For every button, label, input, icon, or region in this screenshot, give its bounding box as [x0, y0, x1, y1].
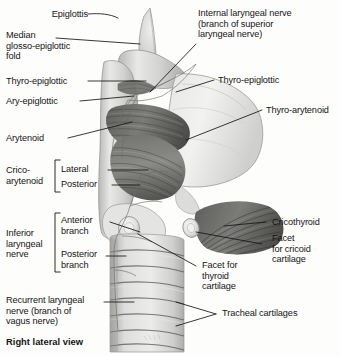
trachea: [110, 234, 184, 352]
label-inferior-posterior-branch: Posterior branch: [61, 249, 113, 270]
label-crico-arytenoid: Crico- arytenoid: [6, 165, 58, 186]
label-arytenoid: Arytenoid: [6, 133, 76, 144]
label-median-glosso-epiglottic-fold: Median glosso-epiglottic fold: [6, 30, 116, 62]
label-crico-arytenoid-lateral: Lateral: [61, 164, 109, 175]
label-facet-for-cricoid-cartilage: Facet for cricoid cartilage: [272, 233, 338, 265]
label-crico-arytenoid-posterior: Posterior: [61, 179, 116, 190]
label-thyro-epiglottic-right: Thyro-epiglottic: [218, 75, 318, 86]
label-recurrent-laryngeal-nerve: Recurrent laryngeal nerve (branch of vag…: [6, 295, 116, 327]
label-thyro-epiglottic-left: Thyro-epiglottic: [6, 76, 96, 87]
label-cricothyroid: Cricothyroid: [272, 217, 340, 228]
label-inferior-anterior-branch: Anterior branch: [61, 215, 113, 236]
leader-epiglottis: [88, 14, 118, 18]
label-inferior-laryngeal-nerve: Inferior laryngeal nerve: [6, 228, 58, 260]
label-thyro-arytenoid: Thyro-arytenoid: [266, 105, 340, 116]
label-facet-for-thyroid-cartilage: Facet for thyroid cartilage: [202, 260, 266, 292]
label-epiglottis: Epiglottis: [34, 9, 88, 20]
label-tracheal-cartilages: Tracheal cartilages: [222, 308, 332, 319]
figure-canvas: Epiglottis Median glosso-epiglottic fold…: [0, 0, 340, 357]
label-ary-epiglottic: Ary-epiglottic: [6, 96, 86, 107]
label-right-lateral-view: Right lateral view: [6, 337, 126, 348]
label-internal-laryngeal-nerve: Internal laryngeal nerve (branch of supe…: [198, 8, 338, 40]
